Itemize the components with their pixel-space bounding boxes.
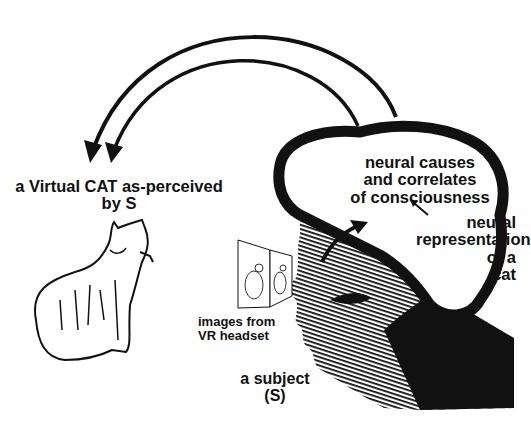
- neural-representation-line2: representation: [416, 231, 516, 248]
- headset-images-line2: VR headset: [198, 329, 298, 343]
- neural-causes-line3: of consciousness: [320, 189, 520, 206]
- neural-causes-line2: and correlates: [320, 171, 520, 188]
- headset-images-label: images from VR headset: [198, 315, 298, 342]
- subject-label: a subject (S): [220, 371, 330, 405]
- neural-representation-line1: neural: [416, 214, 516, 231]
- cat-drawing: [35, 220, 153, 360]
- subject-label-line2: (S): [220, 388, 330, 405]
- virtual-cat-label-line1: a Virtual CAT as-perceived: [14, 178, 224, 195]
- neural-representation-line3: of a: [416, 249, 516, 266]
- vr-headset-panels: [238, 240, 292, 308]
- virtual-cat-label-line2: by S: [14, 195, 224, 212]
- neural-representation-line4: cat: [416, 266, 516, 283]
- neural-causes-line1: neural causes: [320, 154, 520, 171]
- headset-images-line1: images from: [198, 315, 298, 329]
- virtual-cat-label: a Virtual CAT as-perceived by S: [14, 178, 224, 213]
- neural-causes-label: neural causes and correlates of consciou…: [320, 154, 520, 206]
- neural-representation-label: neural representation of a cat: [416, 214, 516, 283]
- subject-label-line1: a subject: [220, 371, 330, 388]
